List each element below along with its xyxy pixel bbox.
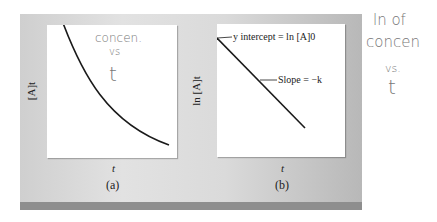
plot-a-y-label: [A]t [25, 82, 37, 100]
plot-a-caption: (a) [106, 178, 119, 193]
plot-a-area: concen. vs t [47, 25, 177, 158]
plot-b-y-label: ln [A]t [190, 76, 202, 106]
plot-b-x-label: t [281, 162, 284, 174]
margin-note-line4: t [388, 75, 396, 99]
plot-b-area: y intercept = ln [A]0 Slope = −k [217, 24, 345, 157]
slope-annotation: Slope = −k [278, 74, 322, 85]
plot-a-x-label: t [112, 162, 115, 174]
plot-b-caption: (b) [275, 178, 289, 193]
handwritten-note-line2: vs [109, 46, 120, 57]
margin-note-line1: ln of [373, 11, 406, 29]
linear-decay-line [217, 24, 345, 157]
margin-note-line2: concen [366, 33, 420, 51]
handwritten-note-line1: concen. [95, 31, 142, 45]
handwritten-note-line3: t [109, 62, 117, 86]
margin-note-line3: vs. [385, 62, 401, 75]
intercept-annotation: y intercept = ln [A]0 [233, 31, 315, 42]
bottom-bar [20, 202, 362, 210]
